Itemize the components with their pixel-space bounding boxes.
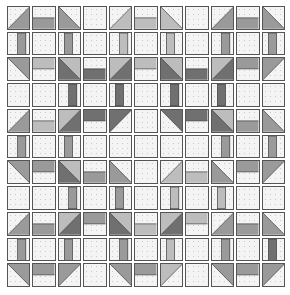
quilt-plain-square bbox=[160, 135, 183, 159]
quilt-plain-square bbox=[32, 135, 55, 159]
quilt-two-fabric-triangle-block bbox=[58, 57, 81, 81]
quilt-two-fabric-triangle-block bbox=[58, 109, 81, 133]
quilt-bar-block bbox=[185, 160, 208, 184]
quilt-plain-square bbox=[185, 32, 208, 56]
quilt-plain-square bbox=[83, 186, 106, 210]
quilt-plain-square bbox=[185, 6, 208, 30]
quilt-plain-square bbox=[32, 83, 55, 107]
quilt-plain-square bbox=[134, 83, 157, 107]
quilt-plain-square bbox=[236, 238, 259, 262]
quilt-two-fabric-triangle-block bbox=[58, 160, 81, 184]
quilt-bar-block bbox=[160, 238, 183, 262]
quilt-two-fabric-triangle-block bbox=[160, 57, 183, 81]
quilt-plain-square bbox=[83, 6, 106, 30]
quilt-bar-block bbox=[211, 135, 234, 159]
quilt-bar-block bbox=[236, 6, 259, 30]
quilt-plain-square bbox=[83, 32, 106, 56]
quilt-two-fabric-triangle-block bbox=[211, 109, 234, 133]
quilt-triangle-block bbox=[7, 160, 30, 184]
quilt-bar-block bbox=[58, 186, 81, 210]
quilt-bar-block bbox=[236, 212, 259, 236]
quilt-plain-square bbox=[134, 238, 157, 262]
quilt-triangle-block bbox=[7, 57, 30, 81]
quilt-bar-block bbox=[160, 186, 183, 210]
quilt-bar-block bbox=[109, 186, 132, 210]
quilt-bar-block bbox=[83, 57, 106, 81]
quilt-bar-block bbox=[134, 263, 157, 287]
quilt-two-fabric-triangle-block bbox=[109, 57, 132, 81]
quilt-plain-square bbox=[7, 186, 30, 210]
quilt-plain-square bbox=[109, 135, 132, 159]
quilt-bar-block bbox=[185, 57, 208, 81]
quilt-bar-block bbox=[211, 83, 234, 107]
quilt-triangle-block bbox=[160, 263, 183, 287]
quilt-bar-block bbox=[185, 212, 208, 236]
quilt-triangle-block bbox=[211, 160, 234, 184]
quilt-plain-square bbox=[185, 135, 208, 159]
quilt-triangle-block bbox=[109, 263, 132, 287]
quilt-bar-block bbox=[211, 186, 234, 210]
quilt-triangle-block bbox=[7, 6, 30, 30]
quilt-triangle-block bbox=[262, 109, 285, 133]
quilt-plain-square bbox=[134, 160, 157, 184]
quilt-bar-block bbox=[262, 135, 285, 159]
quilt-bar-block bbox=[83, 160, 106, 184]
quilt-plain-square bbox=[236, 32, 259, 56]
quilt-plain-square bbox=[7, 83, 30, 107]
quilt-two-fabric-triangle-block bbox=[109, 212, 132, 236]
quilt-triangle-block bbox=[58, 263, 81, 287]
quilt-plain-square bbox=[185, 263, 208, 287]
quilt-plain-square bbox=[83, 83, 106, 107]
quilt-bar-block bbox=[32, 160, 55, 184]
quilt-bar-block bbox=[236, 109, 259, 133]
quilt-triangle-block bbox=[262, 212, 285, 236]
quilt-plain-square bbox=[134, 135, 157, 159]
quilt-plain-square bbox=[83, 263, 106, 287]
quilt-triangle-block bbox=[211, 6, 234, 30]
quilt-bar-block bbox=[134, 57, 157, 81]
quilt-bar-block bbox=[109, 32, 132, 56]
quilt-bar-block bbox=[58, 238, 81, 262]
quilt-plain-square bbox=[236, 135, 259, 159]
quilt-bar-block bbox=[7, 135, 30, 159]
quilt-triangle-block bbox=[7, 263, 30, 287]
quilt-bar-block bbox=[32, 57, 55, 81]
quilt-triangle-block bbox=[160, 160, 183, 184]
quilt-plain-square bbox=[32, 32, 55, 56]
quilt-bar-block bbox=[211, 238, 234, 262]
quilt-triangle-block bbox=[262, 57, 285, 81]
quilt-plain-square bbox=[236, 83, 259, 107]
quilt-bar-block bbox=[58, 83, 81, 107]
quilt-triangle-block bbox=[160, 6, 183, 30]
quilt-triangle-block bbox=[262, 160, 285, 184]
quilt-bar-block bbox=[211, 32, 234, 56]
quilt-bar-block bbox=[32, 6, 55, 30]
quilt-bar-block bbox=[83, 109, 106, 133]
quilt-plain-square bbox=[185, 83, 208, 107]
quilt-plain-square bbox=[83, 135, 106, 159]
quilt-bar-block bbox=[134, 212, 157, 236]
quilt-two-fabric-triangle-block bbox=[58, 212, 81, 236]
quilt-bar-block bbox=[7, 32, 30, 56]
quilt-plain-square bbox=[32, 186, 55, 210]
quilt-bar-block bbox=[262, 32, 285, 56]
quilt-bar-block bbox=[109, 83, 132, 107]
quilt-triangle-block bbox=[109, 109, 132, 133]
quilt-two-fabric-triangle-block bbox=[211, 57, 234, 81]
quilt-bar-block bbox=[185, 109, 208, 133]
quilt-triangle-block bbox=[109, 6, 132, 30]
quilt-bar-block bbox=[160, 83, 183, 107]
quilt-plain-square bbox=[185, 186, 208, 210]
quilt-bar-block bbox=[32, 263, 55, 287]
quilt-triangle-block bbox=[262, 6, 285, 30]
quilt-bar-block bbox=[236, 57, 259, 81]
quilt-plain-square bbox=[262, 83, 285, 107]
quilt-bar-block bbox=[32, 212, 55, 236]
quilt-triangle-block bbox=[7, 212, 30, 236]
quilt-triangle-block bbox=[262, 263, 285, 287]
quilt-triangle-block bbox=[160, 109, 183, 133]
quilt-bar-block bbox=[236, 160, 259, 184]
quilt-plain-square bbox=[134, 109, 157, 133]
quilt-bar-block bbox=[7, 238, 30, 262]
quilt-two-fabric-triangle-block bbox=[160, 212, 183, 236]
